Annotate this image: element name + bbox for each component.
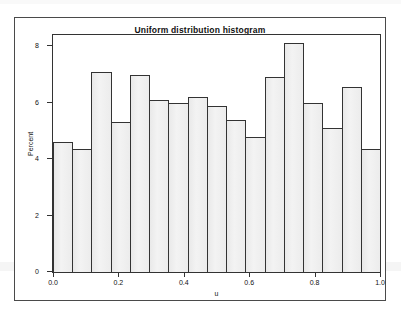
x-tick-label: 0.4: [179, 279, 189, 286]
histogram-bar: [149, 100, 169, 272]
histogram-bar: [53, 142, 73, 272]
histogram-bar: [303, 103, 323, 272]
x-tick-mark: [184, 272, 185, 277]
x-tick-mark: [53, 272, 54, 277]
x-tick-label: 0.6: [244, 279, 254, 286]
figure-container: Uniform distribution histogram Percent 0…: [14, 17, 386, 301]
histogram-bar: [168, 103, 188, 272]
x-tick-label: 0.8: [310, 279, 320, 286]
y-tick-mark: 6: [47, 102, 53, 103]
histogram-bar: [188, 97, 208, 272]
plot-area: 02468 0.00.20.40.60.81.0: [52, 34, 381, 273]
y-axis-title: Percent: [27, 132, 34, 156]
x-tick-label: 0.0: [48, 279, 58, 286]
y-tick-mark: 2: [47, 215, 53, 216]
x-tick-mark: [380, 272, 381, 277]
histogram-bar: [226, 120, 246, 272]
histogram-bar: [361, 149, 381, 272]
histogram-bars: [53, 35, 380, 272]
x-axis-title: u: [52, 290, 381, 297]
x-tick-mark: [315, 272, 316, 277]
histogram-bar: [72, 149, 92, 272]
x-tick-label: 1.0: [375, 279, 385, 286]
histogram-bar: [207, 106, 227, 272]
y-tick-mark: 4: [47, 158, 53, 159]
scan-artifact-top: [0, 0, 401, 4]
y-tick-mark: 8: [47, 45, 53, 46]
histogram-bar: [130, 75, 150, 273]
y-tick-label: 4: [35, 155, 39, 162]
y-tick-label: 8: [35, 42, 39, 49]
x-tick-label: 0.2: [114, 279, 124, 286]
histogram-bar: [342, 87, 362, 272]
y-tick-label: 2: [35, 211, 39, 218]
histogram-bar: [322, 128, 342, 272]
x-tick-mark: [118, 272, 119, 277]
histogram-bar: [265, 77, 285, 272]
y-tick-label: 6: [35, 98, 39, 105]
histogram-bar: [245, 137, 265, 272]
histogram-bar: [284, 43, 304, 272]
histogram-bar: [91, 72, 111, 272]
histogram-bar: [111, 122, 131, 272]
x-tick-mark: [249, 272, 250, 277]
y-tick-label: 0: [35, 268, 39, 275]
